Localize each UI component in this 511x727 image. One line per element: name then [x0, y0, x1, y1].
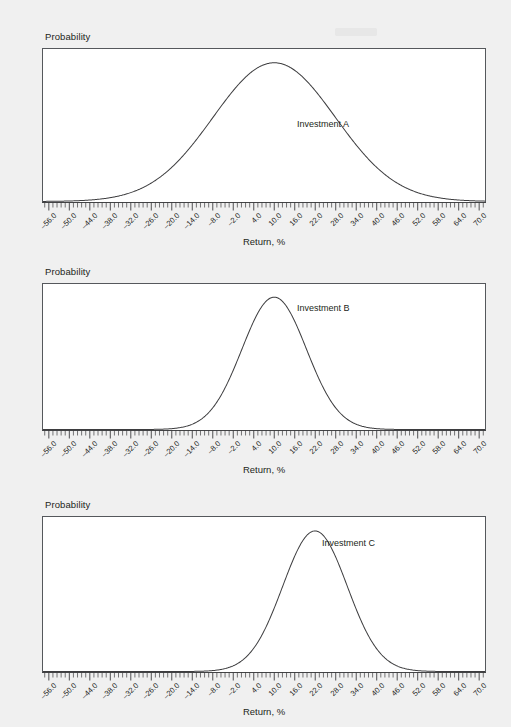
figure-root: Probability Investment A –56.0–50.0–44.0… [0, 0, 511, 727]
x-tick-label: –14.0 [182, 681, 202, 701]
x-axis-ticks-c [42, 672, 486, 681]
x-tick-label: 58.0 [431, 681, 448, 698]
x-tick-label: 28.0 [328, 681, 345, 698]
x-tick-label: 52.0 [410, 681, 427, 698]
x-tick-label: –38.0 [100, 681, 120, 701]
x-tick-label: –32.0 [120, 681, 140, 701]
x-axis-label-c: Return, % [42, 706, 486, 717]
x-tick-label: 22.0 [308, 681, 325, 698]
plot-area-c [42, 516, 486, 673]
x-tick-label: –50.0 [59, 681, 79, 701]
curve-investment-c [43, 517, 485, 672]
x-tick-label: 40.0 [369, 681, 386, 698]
series-label-investment-c: Investment C [322, 538, 375, 548]
x-tick-label: 64.0 [451, 681, 468, 698]
x-tick-label: –44.0 [79, 681, 99, 701]
x-tick-label: 4.0 [249, 681, 263, 695]
x-tick-label: –26.0 [141, 681, 161, 701]
x-tick-label: –56.0 [38, 681, 58, 701]
x-tick-label: 16.0 [287, 681, 304, 698]
x-tick-label: 34.0 [349, 681, 366, 698]
x-tick-label: –2.0 [226, 681, 243, 698]
y-axis-label-c: Probability [45, 499, 90, 510]
x-tick-label: 46.0 [390, 681, 407, 698]
x-tick-label: 70.0 [472, 681, 489, 698]
x-tick-label: –8.0 [205, 681, 222, 698]
x-tick-label: –20.0 [161, 681, 181, 701]
chart-panel-investment-c: Probability Investment C –56.0–50.0–44.0… [0, 0, 511, 727]
x-tick-label: 10.0 [267, 681, 284, 698]
